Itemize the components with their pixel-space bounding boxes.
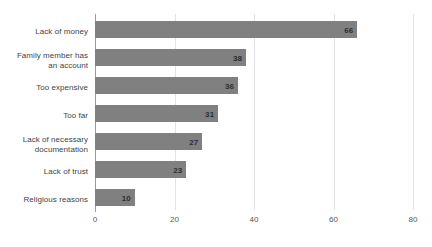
category-label: Lack of necessarydocumentation <box>0 135 88 154</box>
bar-value-label: 38 <box>233 53 242 62</box>
bar-value-label: 31 <box>205 109 214 118</box>
category-label: Lack of trust <box>0 167 88 177</box>
x-tick-label: 40 <box>239 215 269 224</box>
bar-row: Too far31 <box>0 102 432 130</box>
category-label-line: Lack of trust <box>0 167 88 177</box>
category-label: Too far <box>0 111 88 121</box>
category-label-line: Family member has <box>0 51 88 61</box>
bar[interactable]: 66 <box>95 21 357 38</box>
bar-row: Lack of money66 <box>0 18 432 46</box>
category-label-line: Too far <box>0 111 88 121</box>
category-label: Lack of money <box>0 27 88 37</box>
bar-value-label: 23 <box>173 165 182 174</box>
bar[interactable]: 38 <box>95 49 246 66</box>
bar[interactable]: 31 <box>95 105 218 122</box>
bar-chart: 020406080Lack of money66Family member ha… <box>0 0 432 247</box>
bar-row: Lack of necessarydocumentation27 <box>0 130 432 158</box>
bar-row: Lack of trust23 <box>0 158 432 186</box>
category-label-line: Lack of necessary <box>0 135 88 145</box>
bar[interactable]: 27 <box>95 133 202 150</box>
category-label-line: Too expensive <box>0 83 88 93</box>
bar[interactable]: 23 <box>95 161 186 178</box>
bar-row: Too expensive36 <box>0 74 432 102</box>
category-label-line: Religious reasons <box>0 195 88 205</box>
category-label-line: Lack of money <box>0 27 88 37</box>
x-tick-label: 60 <box>319 215 349 224</box>
category-label-line: documentation <box>0 144 88 154</box>
bar-row: Family member hasan account38 <box>0 46 432 74</box>
category-label: Religious reasons <box>0 195 88 205</box>
bar-value-label: 66 <box>344 25 353 34</box>
x-tick-label: 20 <box>160 215 190 224</box>
category-label: Too expensive <box>0 83 88 93</box>
x-tick-label: 80 <box>398 215 428 224</box>
x-tick-label: 0 <box>80 215 110 224</box>
category-label-line: an account <box>0 60 88 70</box>
bar-value-label: 36 <box>225 81 234 90</box>
plot-area: 020406080Lack of money66Family member ha… <box>0 0 432 247</box>
bar-value-label: 10 <box>122 193 131 202</box>
category-label: Family member hasan account <box>0 51 88 70</box>
bar[interactable]: 36 <box>95 77 238 94</box>
bar[interactable]: 10 <box>95 189 135 206</box>
bar-row: Religious reasons10 <box>0 186 432 214</box>
bar-value-label: 27 <box>189 137 198 146</box>
